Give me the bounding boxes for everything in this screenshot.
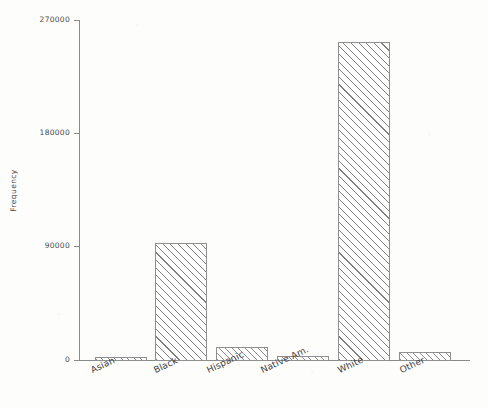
bar-black [155, 243, 207, 361]
y-tick-mark-90000 [74, 246, 79, 247]
y-tick-mark-0 [74, 360, 79, 361]
y-tick-mark-180000 [74, 133, 79, 134]
y-tick-mark-270000 [74, 20, 79, 21]
bar-chart: Frequency 270000 180000 90000 0 Asian Bl… [0, 0, 488, 408]
x-tick-label-asian: Asian [89, 355, 116, 375]
y-tick-label-270000: 270000 [10, 15, 70, 24]
y-axis-title: Frequency [9, 156, 18, 226]
y-tick-label-0: 0 [10, 355, 70, 364]
y-tick-label-180000: 180000 [10, 128, 70, 137]
y-tick-label-90000: 90000 [10, 241, 70, 250]
plot-area: Frequency 270000 180000 90000 0 Asian Bl… [0, 0, 488, 408]
bar-white [338, 42, 390, 361]
y-axis-line [79, 20, 80, 361]
